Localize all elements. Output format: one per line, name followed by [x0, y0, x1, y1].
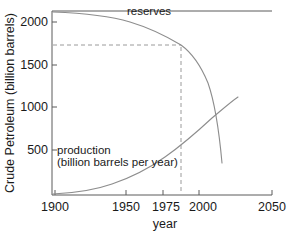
x-tick-label-2050: 2050 — [258, 200, 286, 214]
y-tick-label-2000: 2000 — [20, 15, 48, 29]
x-axis-title: year — [153, 217, 177, 231]
x-tick-label-1975: 1975 — [152, 200, 180, 214]
y-tick-label-500: 500 — [27, 143, 48, 157]
chart-figure: 2000 1500 1000 500 1900 1950 1975 2000 2… — [0, 0, 296, 235]
y-tick-label-1000: 1000 — [20, 100, 48, 114]
x-tick-label-2000: 2000 — [189, 200, 217, 214]
crude-petroleum-line-chart: 2000 1500 1000 500 1900 1950 1975 2000 2… — [0, 0, 296, 235]
y-tick-label-1500: 1500 — [20, 58, 48, 72]
x-tick-label-1950: 1950 — [112, 200, 140, 214]
production-series-units-label: (billion barrels per year) — [57, 156, 178, 168]
reserves-series-label: reserves — [127, 5, 171, 17]
x-tick-label-1900: 1900 — [41, 200, 69, 214]
y-axis-title: Crude Petroleum (billion barrels) — [3, 13, 17, 193]
production-series-label: production — [57, 144, 111, 156]
